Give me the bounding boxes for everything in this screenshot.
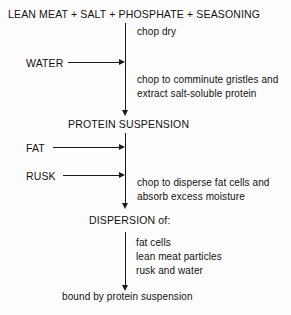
flow-line-segment-1 [125, 23, 126, 115]
step-comminute-line-2: extract salt-soluble protein [137, 89, 257, 99]
flow-arrowhead-1 [122, 110, 128, 116]
diagram-header: LEAN MEAT + SALT + PHOSPHATE + SEASONING [8, 9, 260, 20]
input-water-arrowhead [119, 59, 125, 65]
step-comminute-line-1: chop to comminute gristles and [137, 75, 278, 85]
dispersion-item-1: lean meat particles [136, 252, 222, 262]
step-disperse-line-1: chop to disperse fat cells and [137, 178, 270, 188]
final-outcome-label: bound by protein suspension [62, 292, 193, 302]
step-disperse-line-2: absorb excess moisture [137, 192, 245, 202]
input-rusk-line [63, 175, 121, 176]
input-water-line [68, 62, 121, 63]
flow-line-segment-3 [125, 232, 126, 289]
input-fat-line [53, 147, 121, 148]
input-rusk-arrowhead [119, 172, 125, 178]
dispersion-item-2: rusk and water [136, 266, 203, 276]
flow-line-segment-2 [125, 133, 126, 207]
dispersion-item-0: fat cells [136, 238, 171, 248]
stage-dispersion: DISPERSION of: [89, 215, 170, 226]
step-chop-dry: chop dry [137, 27, 176, 37]
stage-protein-suspension: PROTEIN SUSPENSION [68, 119, 189, 130]
input-water-label: WATER [26, 58, 64, 69]
input-fat-arrowhead [119, 144, 125, 150]
input-rusk-label: RUSK [26, 171, 56, 182]
process-flow-diagram: LEAN MEAT + SALT + PHOSPHATE + SEASONING… [0, 0, 291, 315]
input-fat-label: FAT [26, 143, 45, 154]
flow-arrowhead-2 [122, 203, 128, 209]
